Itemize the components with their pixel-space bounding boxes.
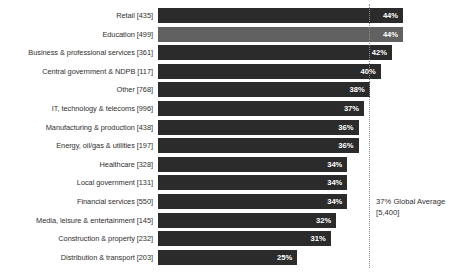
bar-value-label: 34% [327,194,342,209]
category-label: Local government [131] [0,175,158,190]
bar: 34% [158,175,347,190]
category-label: Manufacturing & production [438] [0,120,158,135]
bar: 31% [158,231,331,246]
chart-row: Retail [435]44% [0,8,460,23]
bar-track: 44% [158,8,460,23]
bar-track: 37% [158,101,460,116]
global-average-annotation: 37% Global Average [5,400] [376,197,445,218]
bar-value-label: 32% [316,213,331,228]
bar-value-label: 34% [327,157,342,172]
bar-value-label: 42% [372,45,387,60]
bar-value-label: 36% [338,138,353,153]
bar-track: 40% [158,64,460,79]
bar-value-label: 37% [344,101,359,116]
chart-row: Business & professional services [361]42… [0,45,460,60]
bar-track: 36% [158,138,460,153]
bar: 36% [158,120,359,135]
category-label: Business & professional services [361] [0,45,158,60]
category-label: IT, technology & telecoms [996] [0,101,158,116]
bar-value-label: 25% [277,250,292,265]
bar: 25% [158,250,297,265]
category-label: Construction & property [232] [0,231,158,246]
category-label: Media, leisure & entertainment [145] [0,213,158,228]
chart-row: Energy, oil/gas & utilities [197]36% [0,138,460,153]
category-label: Distribution & transport [203] [0,250,158,265]
chart-row: Construction & property [232]31% [0,231,460,246]
bar: 42% [158,45,392,60]
chart-row: IT, technology & telecoms [996]37% [0,101,460,116]
bar: 40% [158,64,381,79]
global-average-reference-line [369,4,370,268]
bar: 38% [158,82,370,97]
bar: 44% [158,27,403,42]
category-label: Central government & NDPB [117] [0,64,158,79]
chart-row: Healthcare [328]34% [0,157,460,172]
bar-track: 25% [158,250,460,265]
bar-track: 42% [158,45,460,60]
bar-value-label: 38% [349,82,364,97]
bar: 32% [158,213,336,228]
category-label: Energy, oil/gas & utilities [197] [0,138,158,153]
bar: 34% [158,157,347,172]
bar-value-label: 44% [383,8,398,23]
category-label: Education [499] [0,27,158,42]
category-label: Healthcare [328] [0,157,158,172]
bar-track: 44% [158,27,460,42]
bar-track: 34% [158,157,460,172]
bar-value-label: 31% [310,231,325,246]
bar-track: 36% [158,120,460,135]
chart-row: Distribution & transport [203]25% [0,250,460,265]
bar-value-label: 44% [383,27,398,42]
category-label: Other [768] [0,82,158,97]
category-label: Financial services [550] [0,194,158,209]
global-average-label-primary: 37% Global Average [376,197,445,206]
bar: 34% [158,194,347,209]
bar: 37% [158,101,364,116]
bar-value-label: 34% [327,175,342,190]
bar: 44% [158,8,403,23]
chart-rows: Retail [435]44%Education [499]44%Busines… [0,8,460,268]
horizontal-bar-chart: Retail [435]44%Education [499]44%Busines… [0,0,460,279]
bar-track: 34% [158,175,460,190]
chart-row: Education [499]44% [0,27,460,42]
bar-value-label: 36% [338,120,353,135]
bar: 36% [158,138,359,153]
chart-row: Other [768]38% [0,82,460,97]
category-label: Retail [435] [0,8,158,23]
chart-row: Local government [131]34% [0,175,460,190]
chart-row: Manufacturing & production [438]36% [0,120,460,135]
global-average-label-secondary: [5,400] [376,208,445,219]
bar-track: 38% [158,82,460,97]
bar-track: 31% [158,231,460,246]
chart-row: Central government & NDPB [117]40% [0,64,460,79]
